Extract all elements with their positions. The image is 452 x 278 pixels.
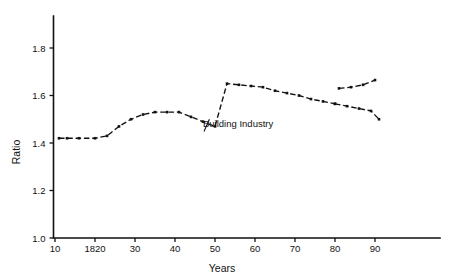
data-point-marker: [190, 116, 193, 119]
x-tick-label: 40: [170, 243, 181, 254]
data-point-marker: [118, 125, 121, 128]
data-point-marker: [358, 107, 361, 110]
x-tick-label: 60: [250, 243, 261, 254]
data-point-marker: [106, 135, 109, 138]
data-point-marker: [94, 137, 97, 140]
y-axis-tick-labels: 1.01.21.41.61.8: [32, 43, 45, 244]
x-tick-label: 50: [210, 243, 221, 254]
data-point-marker: [238, 84, 241, 87]
y-axis-title: Ratio: [10, 140, 22, 165]
x-tick-label: 80: [330, 243, 341, 254]
y-tick-label: 1.4: [32, 138, 45, 149]
axes-group: [50, 16, 441, 242]
data-point-marker: [130, 118, 133, 121]
data-point-marker: [374, 79, 377, 82]
x-tick-label: 90: [370, 243, 381, 254]
y-tick-label: 1.6: [32, 90, 45, 101]
x-axis-tick-labels: 10182030405060708090: [50, 243, 381, 254]
data-point-marker: [262, 86, 265, 89]
data-point-marker: [346, 105, 349, 108]
data-point-marker: [322, 100, 325, 103]
data-series-group: [59, 80, 379, 138]
y-tick-label: 1.0: [32, 233, 45, 244]
data-point-marker: [142, 113, 145, 116]
x-tick-label: 1820: [84, 243, 105, 254]
data-point-marker: [154, 111, 157, 114]
data-point-marker: [178, 111, 181, 114]
data-point-marker: [66, 137, 69, 140]
x-tick-label: 30: [130, 243, 141, 254]
data-point-marker: [350, 86, 353, 89]
y-tick-label: 1.2: [32, 185, 45, 196]
data-point-marker: [298, 94, 301, 97]
data-point-marker: [166, 111, 169, 114]
line-chart: 1.01.21.41.61.8 10182030405060708090 Rat…: [0, 0, 452, 278]
data-point-marker: [250, 85, 253, 88]
x-tick-label: 70: [290, 243, 301, 254]
series-annotation-building-industry: Building Industry: [203, 118, 273, 129]
x-axis-title: Years: [209, 262, 235, 274]
data-point-marker: [362, 84, 365, 87]
x-tick-label: 10: [50, 243, 61, 254]
series-line: [335, 104, 379, 119]
data-point-marker: [78, 137, 81, 140]
data-point-marker: [334, 103, 337, 106]
data-point-marker: [286, 92, 289, 95]
data-point-marker: [370, 110, 373, 113]
series-line: [59, 84, 335, 139]
series-line: [339, 80, 375, 88]
y-tick-label: 1.8: [32, 43, 45, 54]
data-point-markers: [58, 79, 381, 140]
data-point-marker: [378, 118, 381, 121]
data-point-marker: [226, 82, 229, 85]
data-point-marker: [310, 98, 313, 101]
data-point-marker: [58, 137, 61, 140]
data-point-marker: [274, 89, 277, 92]
data-point-marker: [338, 87, 341, 90]
chart-page: 1.01.21.41.61.8 10182030405060708090 Rat…: [0, 0, 452, 278]
